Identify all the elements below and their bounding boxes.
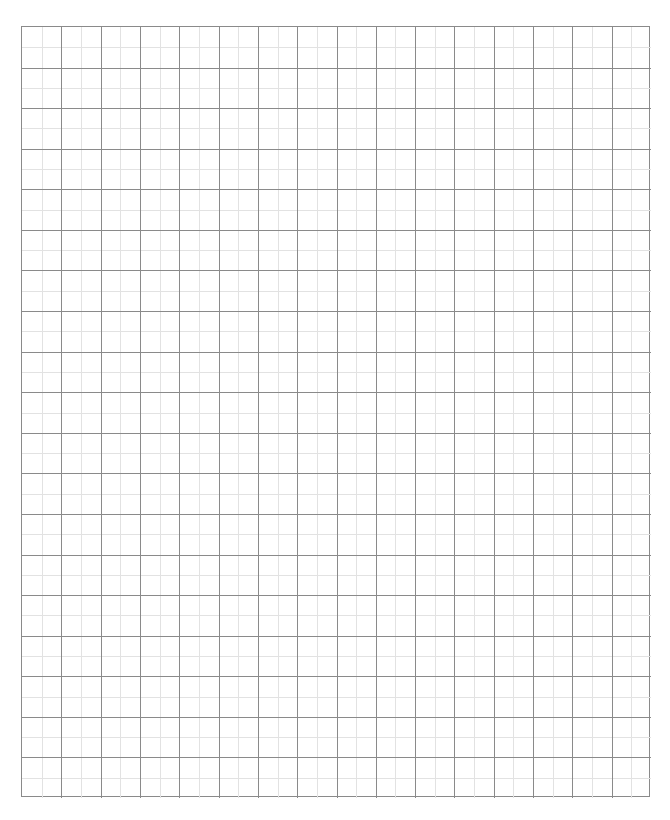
graph-paper-grid — [21, 26, 650, 797]
grid-lines — [22, 27, 651, 798]
